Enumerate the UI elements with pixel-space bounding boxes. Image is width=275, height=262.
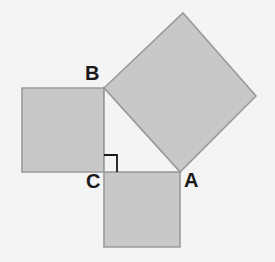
vertex-label-a: A (184, 169, 198, 191)
square-on-leg-cb-shape (22, 88, 104, 172)
pythagorean-diagram: B C A (0, 0, 275, 262)
vertex-label-b: B (85, 62, 99, 84)
diagram-canvas: B C A (0, 0, 275, 262)
square-on-leg-ca-shape (104, 172, 180, 247)
vertex-label-c: C (86, 170, 100, 192)
